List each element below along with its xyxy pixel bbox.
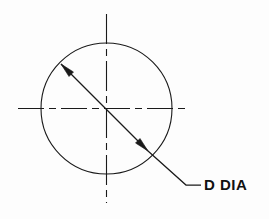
dimension-label: D DIA bbox=[204, 176, 247, 193]
engineering-drawing-canvas: D DIA bbox=[0, 0, 269, 219]
leader-line bbox=[148, 151, 201, 185]
diameter-callout-drawing: D DIA bbox=[0, 0, 269, 219]
diameter-dimension-line bbox=[61, 64, 148, 151]
